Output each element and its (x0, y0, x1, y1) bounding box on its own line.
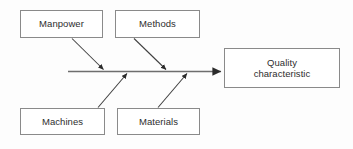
cause-label-machines: Machines (40, 116, 85, 128)
bone-machines (98, 74, 127, 108)
cause-box-methods[interactable]: Methods (115, 10, 200, 38)
cause-box-machines[interactable]: Machines (20, 108, 105, 135)
cause-label-materials: Materials (137, 116, 180, 128)
bone-manpower (72, 39, 104, 70)
cause-label-methods: Methods (137, 18, 178, 30)
bone-materials (158, 74, 187, 108)
cause-box-manpower[interactable]: Manpower (20, 10, 103, 38)
cause-label-manpower: Manpower (37, 18, 86, 30)
bone-methods (134, 39, 166, 70)
cause-box-materials[interactable]: Materials (117, 108, 200, 135)
effect-box-quality-characteristic[interactable]: Quality characteristic (224, 48, 340, 88)
fishbone-diagram-canvas: Manpower Methods Machines Materials Qual… (0, 0, 353, 149)
effect-label: Quality characteristic (252, 57, 313, 80)
